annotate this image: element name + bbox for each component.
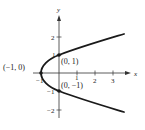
y-axis-label: y <box>56 6 61 14</box>
y-tick-neg2: −2 <box>47 107 55 115</box>
y-axis <box>57 15 62 118</box>
x-axis-label: x <box>133 70 138 78</box>
x-tick-2: 2 <box>93 77 97 85</box>
x-axis <box>33 71 131 76</box>
parabola-graph: x −1 1 2 3 y 2 1 −1 −2 (−1, 0) (0, 1) (0… <box>0 0 145 130</box>
x-tick-3: 3 <box>111 77 115 85</box>
bottom-intercept-label: (0, −1) <box>61 81 83 90</box>
top-intercept-label: (0, 1) <box>61 57 79 66</box>
x-axis-arrow-icon <box>125 71 131 75</box>
y-tick-2: 2 <box>51 34 55 42</box>
vertex-point <box>39 71 43 75</box>
y-axis-arrow-icon <box>57 15 61 21</box>
vertex-label: (−1, 0) <box>3 63 25 72</box>
